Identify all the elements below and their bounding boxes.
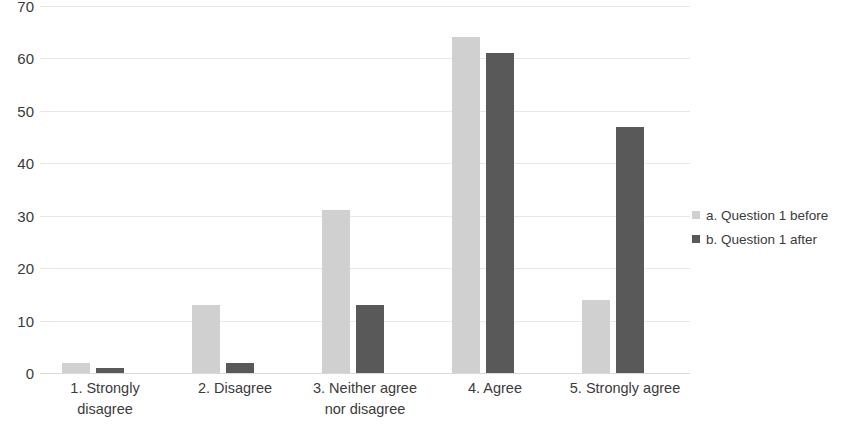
square-marker-icon: [692, 235, 700, 243]
y-tick-label: 10: [2, 313, 34, 328]
x-tick-label: 1. Stronglydisagree: [40, 378, 170, 420]
bar[interactable]: [192, 305, 220, 373]
x-tick-label-line: 4. Agree: [430, 378, 560, 399]
bar[interactable]: [226, 363, 254, 373]
legend-item-label: a. Question 1 before: [706, 208, 828, 223]
bar-group: [430, 6, 560, 373]
y-tick-label: 50: [2, 103, 34, 118]
bar[interactable]: [582, 300, 610, 373]
legend-item[interactable]: a. Question 1 before: [692, 203, 847, 227]
x-tick-label: 2. Disagree: [170, 378, 300, 399]
bar-group: [170, 6, 300, 373]
legend-item[interactable]: b. Question 1 after: [692, 227, 847, 251]
y-tick-label: 70: [2, 0, 34, 14]
bar-group: [40, 6, 170, 373]
bar[interactable]: [322, 210, 350, 373]
bar[interactable]: [96, 368, 124, 373]
y-tick-label: 60: [2, 51, 34, 66]
y-tick-label: 20: [2, 261, 34, 276]
bar[interactable]: [356, 305, 384, 373]
x-tick-label-line: 3. Neither agree: [300, 378, 430, 399]
y-axis: 010203040506070: [0, 6, 34, 373]
bar[interactable]: [452, 37, 480, 373]
x-tick-label: 4. Agree: [430, 378, 560, 399]
square-marker-icon: [692, 211, 700, 219]
x-tick-label: 5. Strongly agree: [560, 378, 690, 399]
x-axis: 1. Stronglydisagree2. Disagree3. Neither…: [40, 378, 690, 433]
bar[interactable]: [486, 53, 514, 373]
y-tick-label: 30: [2, 208, 34, 223]
gridline-0: [40, 373, 690, 374]
bar-group: [300, 6, 430, 373]
bar[interactable]: [616, 127, 644, 373]
legend-item-label: b. Question 1 after: [706, 232, 817, 247]
x-tick-label: 3. Neither agreenor disagree: [300, 378, 430, 420]
bar[interactable]: [62, 363, 90, 373]
x-tick-label-line: nor disagree: [300, 399, 430, 420]
x-tick-label-line: 2. Disagree: [170, 378, 300, 399]
y-tick-label: 40: [2, 156, 34, 171]
x-tick-label-line: 5. Strongly agree: [560, 378, 690, 399]
y-tick-label: 0: [2, 366, 34, 381]
grouped-bar-chart: 010203040506070 1. Stronglydisagree2. Di…: [0, 0, 850, 439]
plot-area: [40, 6, 690, 373]
x-tick-label-line: disagree: [40, 399, 170, 420]
bar-group: [560, 6, 690, 373]
x-tick-label-line: 1. Strongly: [40, 378, 170, 399]
chart-legend: a. Question 1 beforeb. Question 1 after: [692, 203, 847, 251]
